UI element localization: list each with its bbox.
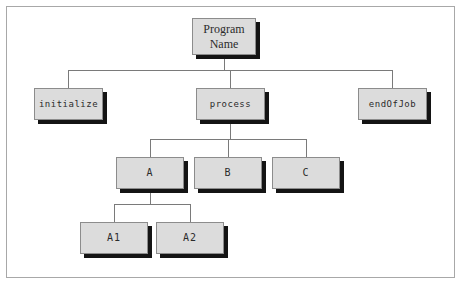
node-a[interactable]: A — [116, 157, 184, 189]
node-a2[interactable]: A2 — [156, 222, 224, 254]
connector-drop-b — [228, 139, 229, 157]
node-label: C — [302, 167, 309, 179]
node-c[interactable]: C — [272, 157, 340, 189]
connector-drop-c — [306, 139, 307, 157]
connector-drop-endofjob — [392, 70, 393, 88]
node-process[interactable]: process — [196, 88, 265, 120]
node-program-name[interactable]: Program Name — [192, 18, 256, 55]
node-label: initialize — [39, 99, 98, 109]
connector-drop-a2 — [190, 204, 191, 222]
node-label: A1 — [107, 232, 121, 244]
connector-drop-a1 — [114, 204, 115, 222]
connector-root-stem — [224, 55, 225, 70]
node-label: A — [146, 167, 153, 179]
connector-level3-bus — [114, 204, 190, 205]
node-label: A2 — [183, 232, 197, 244]
node-a1[interactable]: A1 — [80, 222, 148, 254]
node-label: Program Name — [203, 22, 244, 52]
connector-drop-process — [230, 70, 231, 88]
node-initialize[interactable]: initialize — [34, 88, 103, 120]
node-label: process — [210, 99, 251, 109]
node-b[interactable]: B — [194, 157, 262, 189]
connector-drop-a — [150, 139, 151, 157]
node-endofjob[interactable]: endOfJob — [358, 88, 427, 120]
node-label: B — [224, 167, 231, 179]
connector-process-stem — [230, 120, 231, 139]
node-label: endOfJob — [369, 99, 416, 109]
diagram-canvas: Program Name initialize process endOfJob… — [0, 0, 462, 285]
connector-a-stem — [150, 189, 151, 204]
connector-drop-initialize — [68, 70, 69, 88]
